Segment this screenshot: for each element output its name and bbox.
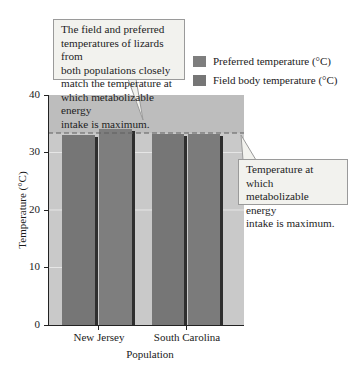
legend-item-field: Field body temperature (°C)	[193, 71, 337, 90]
legend-swatch-preferred	[193, 56, 206, 67]
bar-new-jersey-field	[62, 135, 98, 325]
y-tick-0: 0	[20, 318, 40, 330]
y-tick-10: 10	[20, 260, 40, 272]
y-tick-30: 30	[20, 145, 40, 157]
legend-item-preferred: Preferred temperature (°C)	[193, 52, 337, 71]
bar-south-carolina-preferred	[188, 134, 223, 325]
right-callout-pointer	[241, 135, 256, 160]
annotation-right-callout: Temperature at which metabolizable energ…	[238, 159, 348, 205]
bar-new-jersey-preferred	[99, 129, 135, 325]
x-axis-title: Population	[100, 348, 200, 360]
y-axis-title: Temperature (°C)	[16, 165, 28, 255]
legend: Preferred temperature (°C) Field body te…	[193, 52, 337, 90]
y-tick-40: 40	[20, 88, 40, 100]
x-tick-south-carolina: South Carolina	[142, 331, 232, 343]
bar-south-carolina-field	[152, 134, 187, 325]
legend-swatch-field	[193, 75, 206, 86]
annotation-top-callout: The field and preferred temperatures of …	[53, 19, 185, 80]
x-tick-new-jersey: New Jersey	[54, 331, 144, 343]
